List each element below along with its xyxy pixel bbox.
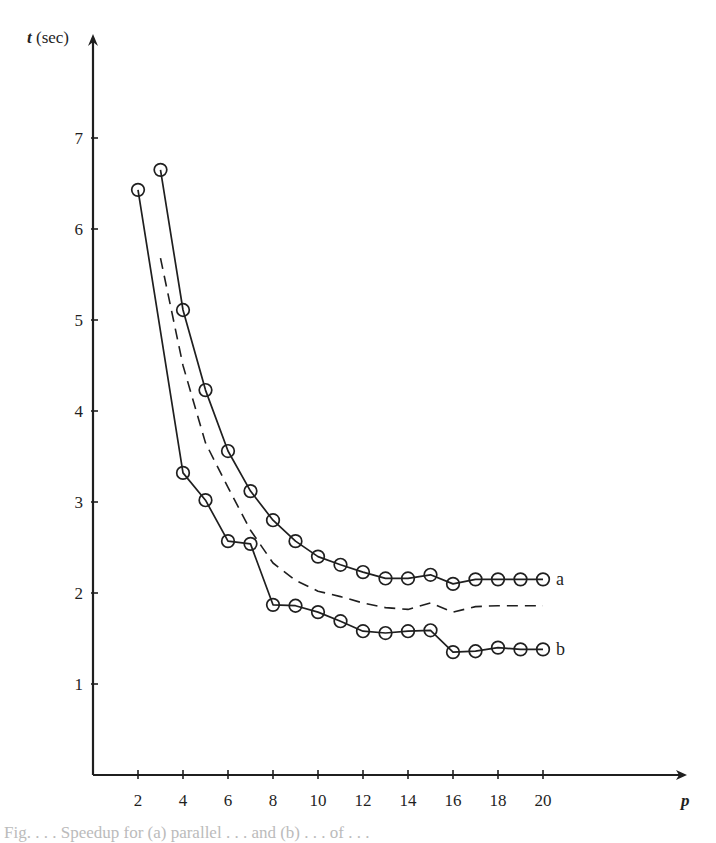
- x-tick-label: 14: [400, 791, 418, 810]
- data-point-circle-icon: [469, 645, 482, 658]
- data-point-circle-icon: [447, 578, 460, 591]
- figure-caption: Fig. . . . Speedup for (a) parallel . . …: [4, 823, 369, 843]
- data-point-circle-icon: [379, 627, 392, 640]
- axes: 24681012141618201234567t (sec)p: [27, 28, 690, 810]
- data-point-circle-icon: [312, 550, 325, 563]
- y-tick-label: 3: [75, 493, 84, 512]
- data-point-circle-icon: [267, 514, 280, 527]
- x-tick-label: 4: [179, 791, 188, 810]
- series-a: [154, 164, 549, 591]
- y-tick-label: 2: [75, 584, 84, 603]
- series-label-a: a: [556, 569, 564, 589]
- x-tick-label: 20: [535, 791, 552, 810]
- data-point-circle-icon: [402, 572, 415, 585]
- data-point-circle-icon: [244, 538, 257, 551]
- x-tick-label: 6: [224, 791, 233, 810]
- data-point-circle-icon: [312, 606, 325, 619]
- y-tick-label: 4: [75, 402, 84, 421]
- x-tick-label: 18: [490, 791, 507, 810]
- x-tick-label: 10: [310, 791, 327, 810]
- data-point-circle-icon: [537, 573, 550, 586]
- data-point-circle-icon: [447, 646, 460, 659]
- data-point-circle-icon: [177, 467, 190, 480]
- series-b: [132, 184, 550, 659]
- x-tick-label: 8: [269, 791, 278, 810]
- data-point-circle-icon: [154, 164, 167, 177]
- y-tick-label: 6: [75, 220, 84, 239]
- data-point-circle-icon: [424, 624, 437, 637]
- data-point-circle-icon: [357, 566, 370, 579]
- data-point-circle-icon: [537, 643, 550, 656]
- data-point-circle-icon: [244, 485, 257, 498]
- data-point-circle-icon: [514, 643, 527, 656]
- data-point-circle-icon: [424, 569, 437, 582]
- data-point-circle-icon: [289, 535, 302, 548]
- data-point-circle-icon: [492, 573, 505, 586]
- x-tick-label: 12: [355, 791, 372, 810]
- data-point-circle-icon: [334, 558, 347, 571]
- data-point-circle-icon: [222, 535, 235, 548]
- y-tick-label: 5: [75, 311, 84, 330]
- x-tick-label: 2: [134, 791, 143, 810]
- series-line: [161, 258, 544, 612]
- y-axis-title: t (sec): [27, 28, 69, 47]
- data-point-circle-icon: [357, 625, 370, 638]
- data-point-circle-icon: [379, 572, 392, 585]
- x-axis-title: p: [679, 791, 690, 810]
- data-point-circle-icon: [334, 615, 347, 628]
- data-point-circle-icon: [289, 599, 302, 612]
- y-tick-label: 1: [75, 675, 84, 694]
- series-dashed: [161, 258, 544, 612]
- y-tick-label: 7: [75, 129, 84, 148]
- series-label-b: b: [556, 639, 565, 659]
- data-point-circle-icon: [402, 625, 415, 638]
- data-point-circle-icon: [132, 184, 145, 197]
- data-point-circle-icon: [199, 494, 212, 507]
- data-point-circle-icon: [222, 445, 235, 458]
- data-point-circle-icon: [199, 384, 212, 397]
- data-point-circle-icon: [492, 641, 505, 654]
- x-tick-label: 16: [445, 791, 462, 810]
- data-point-circle-icon: [469, 573, 482, 586]
- data-point-circle-icon: [267, 599, 280, 612]
- data-point-circle-icon: [177, 304, 190, 317]
- data-point-circle-icon: [514, 573, 527, 586]
